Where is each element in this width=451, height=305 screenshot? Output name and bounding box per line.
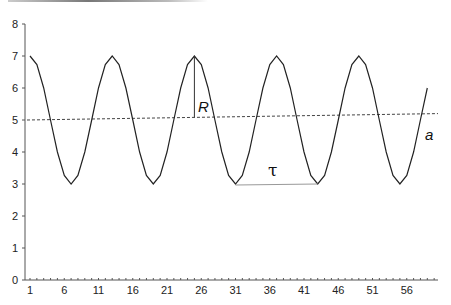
x-tick-label: 11 [93,284,104,296]
x-tick-label: 51 [366,284,378,296]
trend-dashed-line [27,114,438,120]
y-tick-label: 5 [12,114,18,126]
x-tick-label: 26 [195,284,207,296]
y-tick-label: 2 [12,210,18,222]
y-axis: 012345678 [12,18,25,286]
x-tick-label: 41 [298,284,310,296]
period-tau-marker [236,184,318,185]
x-tick-label: 1 [27,284,33,296]
y-tick-label: 6 [12,82,18,94]
y-tick-label: 1 [12,242,18,254]
x-tick-label: 21 [161,284,173,296]
x-tick-label: 46 [332,284,344,296]
series-a-label: a [425,126,433,143]
line-chart: 012345678 1611162126313641465156 R τ a [0,0,451,305]
y-tick-label: 8 [12,18,18,30]
x-tick-label: 16 [127,284,139,296]
x-axis: 1611162126313641465156 [25,278,438,296]
tau-label: τ [268,160,277,180]
x-tick-label: 56 [401,284,413,296]
x-tick-label: 36 [264,284,276,296]
r-label: R [198,98,209,115]
y-tick-label: 3 [12,178,18,190]
series-a-line [30,56,427,184]
y-tick-label: 4 [12,146,18,158]
y-tick-label: 0 [12,274,18,286]
y-tick-label: 7 [12,50,18,62]
x-tick-label: 6 [61,284,67,296]
x-tick-label: 31 [229,284,241,296]
